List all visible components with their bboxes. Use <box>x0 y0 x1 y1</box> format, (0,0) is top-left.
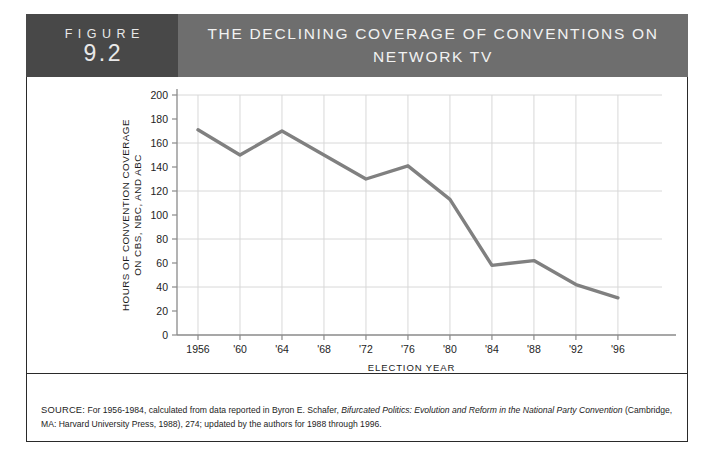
y-axis-tick-label: 120 <box>150 185 168 197</box>
y-axis-tick-label: 100 <box>150 209 168 221</box>
x-axis-tick-label: '64 <box>275 343 289 355</box>
x-axis-tick-label: '92 <box>569 343 583 355</box>
source-divider <box>27 373 687 374</box>
line-chart: 0204060801001201401601802001956'60'64'68… <box>27 77 687 377</box>
x-axis-tick-label: '84 <box>485 343 499 355</box>
x-axis-tick-label: 1956 <box>186 343 210 355</box>
y-axis-tick-label: 200 <box>150 89 168 101</box>
y-axis-tick-label: 80 <box>156 233 168 245</box>
figure-container: FIGURE 9.2 THE DECLINING COVERAGE OF CON… <box>26 14 688 442</box>
x-axis-tick-label: '68 <box>317 343 331 355</box>
x-axis-tick-label: '60 <box>233 343 247 355</box>
figure-label: FIGURE <box>59 27 145 41</box>
x-axis-tick-label: '96 <box>611 343 625 355</box>
y-axis-tick-label: 160 <box>150 137 168 149</box>
source-note: SOURCE: For 1956-1984, calculated from d… <box>41 403 673 431</box>
x-axis-title: ELECTION YEAR <box>368 362 456 373</box>
y-axis-title-line-1: HOURS OF CONVENTION COVERAGE <box>120 119 131 311</box>
y-axis-tick-label: 40 <box>156 281 168 293</box>
x-axis-tick-label: '72 <box>359 343 373 355</box>
figure-number-block: FIGURE 9.2 <box>26 14 178 77</box>
x-axis-tick-label: '80 <box>443 343 457 355</box>
figure-body: 0204060801001201401601802001956'60'64'68… <box>26 77 688 442</box>
x-axis-tick-label: '76 <box>401 343 415 355</box>
figure-number: 9.2 <box>81 42 123 65</box>
figure-title-line-1: THE DECLINING COVERAGE OF CONVENTIONS ON <box>207 25 658 42</box>
y-axis-tick-label: 0 <box>162 329 168 341</box>
y-axis-tick-label: 140 <box>150 161 168 173</box>
source-text-before: For 1956-1984, calculated from data repo… <box>85 405 341 415</box>
chart-plot-area: 0204060801001201401601802001956'60'64'68… <box>27 77 687 441</box>
source-italic-title: Bifurcated Politics: Evolution and Refor… <box>341 405 622 415</box>
figure-header: FIGURE 9.2 THE DECLINING COVERAGE OF CON… <box>26 14 688 77</box>
y-axis-tick-label: 180 <box>150 113 168 125</box>
figure-title-line-2: NETWORK TV <box>373 48 493 65</box>
figure-title: THE DECLINING COVERAGE OF CONVENTIONS ON… <box>178 14 688 77</box>
y-axis-title-line-2: ON CBS, NBC, AND ABC <box>132 154 143 276</box>
y-axis-tick-label: 60 <box>156 257 168 269</box>
x-axis-tick-label: '88 <box>527 343 541 355</box>
y-axis-tick-label: 20 <box>156 305 168 317</box>
source-label: SOURCE: <box>41 404 85 415</box>
